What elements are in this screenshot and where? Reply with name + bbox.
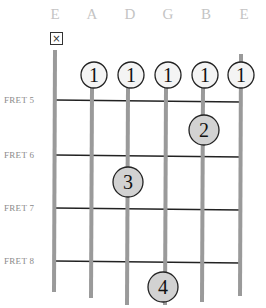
fretboard: 11111234 <box>0 0 266 308</box>
finger-marker: 3 <box>113 167 143 197</box>
fret-line-7 <box>55 208 241 210</box>
svg-text:1: 1 <box>200 64 210 86</box>
fret-line-6 <box>55 155 241 157</box>
finger-marker: 1 <box>81 62 107 88</box>
string-line-0 <box>54 50 55 292</box>
finger-marker: 1 <box>228 62 254 88</box>
svg-text:4: 4 <box>158 276 168 298</box>
svg-text:2: 2 <box>199 119 209 141</box>
finger-marker: 1 <box>155 62 181 88</box>
finger-marker: 2 <box>189 115 219 145</box>
svg-text:1: 1 <box>126 64 136 86</box>
svg-text:1: 1 <box>89 64 99 86</box>
finger-marker: 1 <box>192 62 218 88</box>
finger-marker: 1 <box>118 62 144 88</box>
string-line-5 <box>240 54 241 296</box>
svg-text:1: 1 <box>236 64 246 86</box>
string-line-1 <box>91 88 92 298</box>
finger-marker: 4 <box>148 272 178 302</box>
svg-text:1: 1 <box>163 64 173 86</box>
svg-text:3: 3 <box>123 171 133 193</box>
fret-line-8 <box>55 261 241 263</box>
fret-line-5 <box>55 100 241 102</box>
